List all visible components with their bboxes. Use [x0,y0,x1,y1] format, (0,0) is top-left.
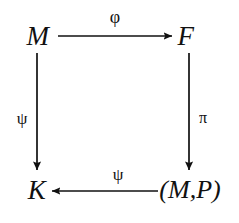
edge-label-psi-bottom: ψ [113,166,124,183]
edge-label-pi-right: π [199,110,207,126]
node-m-top-left: M [27,23,50,50]
node-f-top-right: F [178,23,195,50]
edge-label-psi-left: ψ [17,110,28,127]
edge-label-phi-top: φ [110,8,120,26]
commutative-diagram: M F K (M,P) φ ψ π ψ [0,0,239,223]
node-k-bottom-left: K [28,177,47,204]
node-m-p-bottom-right: (M,P) [159,177,220,203]
